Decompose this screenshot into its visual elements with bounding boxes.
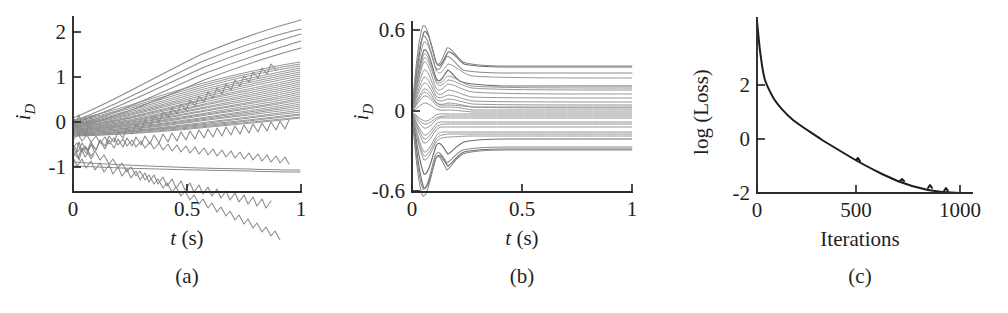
panel-b-xlabel: t (s) — [505, 226, 538, 250]
svg-text:iD: iD — [11, 104, 38, 121]
panel-c-caption: (c) — [848, 264, 871, 288]
panel-a-xlabel: t (s) — [170, 226, 203, 250]
panel-a-ylabel: iD — [11, 104, 38, 121]
panel-b-ytick-06: 0.6 — [379, 18, 405, 42]
panel-c-y-ticks — [757, 85, 765, 193]
panel-a-xtick-0: 0 — [68, 197, 79, 221]
panel-c-ytick-2: 2 — [740, 73, 751, 97]
svg-text:log (Loss): log (Loss) — [689, 69, 713, 155]
panel-c-xtick-1000: 1000 — [939, 198, 981, 222]
panel-c-xlabel: Iterations — [820, 227, 899, 251]
panel-b-xtick-1: 1 — [627, 197, 638, 221]
panel-b-x-ticks — [412, 184, 632, 192]
panel-c: 2 0 -2 0 500 1000 Iterations log (Loss) … — [660, 0, 1008, 313]
panel-c-xtick-500: 500 — [840, 198, 872, 222]
panel-b-svg: 0.6 0 -0.6 0 0.5 1 t (s) iD (b) — [330, 0, 660, 313]
panel-b-ytick-0: 0 — [395, 99, 406, 123]
panel-b-ylabel: iD — [349, 104, 376, 121]
svg-text:iD: iD — [349, 104, 376, 121]
panel-a-ytick-2: 2 — [56, 20, 67, 44]
panel-c-axes — [757, 18, 972, 193]
trace-overshoot-envelope — [412, 26, 632, 196]
panel-a-caption: (a) — [175, 264, 198, 288]
panel-c-svg: 2 0 -2 0 500 1000 Iterations log (Loss) … — [660, 0, 1008, 313]
panel-a-ytick-neg1: -1 — [49, 155, 67, 179]
panel-c-xtick-0: 0 — [752, 198, 763, 222]
loss-curve — [757, 21, 960, 193]
panel-c-ylabel: log (Loss) — [689, 69, 713, 155]
panel-b-xtick-05: 0.5 — [509, 197, 535, 221]
panel-b-traces — [412, 26, 632, 196]
panel-a-ytick-1: 1 — [56, 65, 67, 89]
panel-a-x-ticks — [73, 184, 301, 192]
figure-three-panel: 2 1 0 -1 0 0.5 1 t (s) iD (a) — [0, 0, 1008, 313]
panel-a-xtick-1: 1 — [296, 197, 307, 221]
panel-b-xtick-0: 0 — [407, 197, 418, 221]
panel-b-ytick-neg06: -0.6 — [372, 179, 405, 203]
panel-a: 2 1 0 -1 0 0.5 1 t (s) iD (a) — [0, 0, 330, 313]
panel-a-svg: 2 1 0 -1 0 0.5 1 t (s) iD (a) — [0, 0, 330, 313]
panel-a-ytick-0: 0 — [56, 110, 67, 134]
panel-a-xtick-05: 0.5 — [174, 197, 200, 221]
panel-b-caption: (b) — [510, 264, 535, 288]
panel-c-ytick-neg2: -2 — [733, 181, 751, 205]
loss-curve-noise — [856, 158, 948, 191]
panel-b: 0.6 0 -0.6 0 0.5 1 t (s) iD (b) — [330, 0, 660, 313]
panel-c-ytick-0: 0 — [740, 127, 751, 151]
